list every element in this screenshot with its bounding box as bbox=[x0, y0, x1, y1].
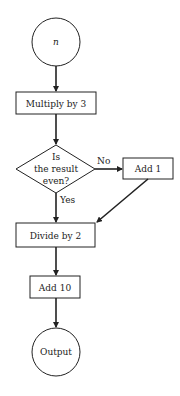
start-node: n bbox=[32, 18, 80, 66]
edge-add1-divide bbox=[97, 179, 148, 222]
no-label: No bbox=[97, 156, 110, 166]
output-node: Output bbox=[32, 328, 80, 376]
add10-node: Add 10 bbox=[30, 276, 80, 298]
add1-label: Add 1 bbox=[134, 164, 162, 174]
output-label: Output bbox=[40, 347, 72, 357]
multiply-node: Multiply by 3 bbox=[16, 92, 96, 114]
flowchart-canvas: n Multiply by 3 Is the result even? No A… bbox=[0, 0, 180, 396]
divide-label: Divide by 2 bbox=[30, 231, 81, 241]
decision-line-2: the result bbox=[34, 164, 79, 174]
multiply-label: Multiply by 3 bbox=[26, 99, 87, 109]
start-label: n bbox=[53, 37, 59, 47]
add1-node: Add 1 bbox=[123, 158, 173, 179]
divide-node: Divide by 2 bbox=[16, 223, 95, 247]
decision-line-1: Is bbox=[52, 152, 61, 162]
add10-label: Add 10 bbox=[38, 283, 72, 293]
yes-label: Yes bbox=[59, 195, 75, 205]
decision-node: Is the result even? bbox=[16, 145, 95, 193]
decision-line-3: even? bbox=[43, 176, 70, 186]
